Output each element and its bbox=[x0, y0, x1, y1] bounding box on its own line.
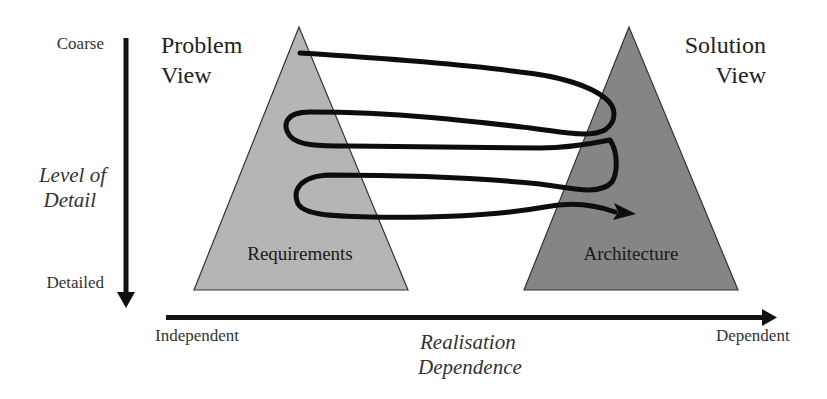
level-of-detail-title: Level of Detail bbox=[10, 163, 106, 213]
solution-view-line2: View bbox=[660, 60, 766, 90]
solution-view-line1: Solution bbox=[660, 30, 766, 60]
realisation-dependence-title: Realisation Dependence bbox=[418, 330, 522, 380]
level-of-detail-line2: Detail bbox=[10, 188, 106, 213]
level-of-detail-line1: Level of bbox=[10, 163, 106, 188]
coarse-label: Coarse bbox=[20, 35, 104, 54]
independent-label: Independent bbox=[155, 327, 239, 346]
problem-view-title: Problem View bbox=[161, 30, 242, 90]
detailed-label: Detailed bbox=[14, 274, 104, 293]
realisation-dependence-arrow bbox=[166, 309, 777, 326]
level-of-detail-arrow bbox=[117, 38, 135, 308]
problem-view-line1: Problem bbox=[161, 30, 242, 60]
dependent-label: Dependent bbox=[716, 327, 790, 346]
problem-view-line2: View bbox=[161, 60, 242, 90]
solution-view-title: Solution View bbox=[660, 30, 766, 90]
architecture-label: Architecture bbox=[551, 244, 711, 265]
realisation-line: Realisation bbox=[418, 330, 522, 355]
dependence-line: Dependence bbox=[418, 355, 522, 380]
requirements-label: Requirements bbox=[220, 244, 380, 265]
